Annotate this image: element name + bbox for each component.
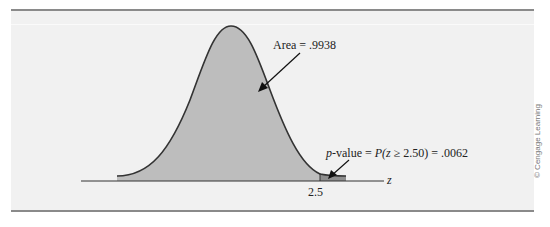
- normal-curve-chart: z 2.5 Area = .9938 p-value = P(z ≥ 2.50)…: [0, 0, 550, 227]
- p-value-label: p-value = P(z ≥ 2.50) = .0062: [325, 146, 468, 160]
- tick-label: 2.5: [308, 185, 323, 199]
- area-arrow: [262, 53, 300, 88]
- axis-label-z: z: [386, 173, 392, 187]
- credit-text: © Cengage Learning: [533, 104, 542, 178]
- area-label: Area = .9938: [273, 38, 336, 52]
